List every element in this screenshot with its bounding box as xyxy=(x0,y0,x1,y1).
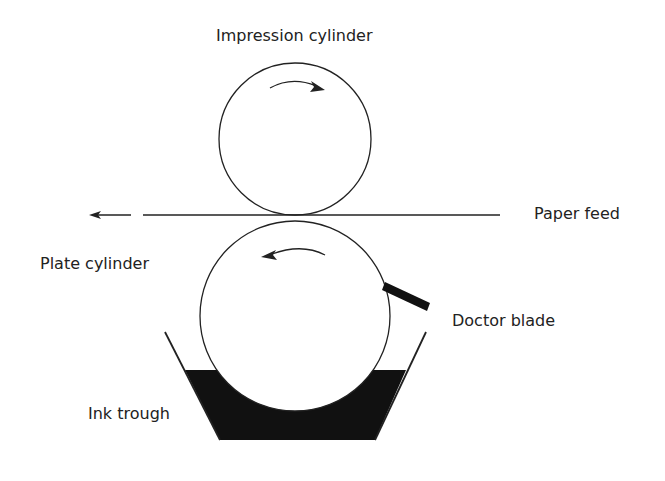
ink-trough-label: Ink trough xyxy=(88,404,170,423)
plate-cylinder-label: Plate cylinder xyxy=(40,254,149,273)
gravure-printing-diagram: Impression cylinder Paper feed Plate cyl… xyxy=(0,0,665,481)
impression-cylinder xyxy=(219,63,371,215)
impression-cylinder-label: Impression cylinder xyxy=(216,26,373,45)
doctor-blade-label: Doctor blade xyxy=(452,311,555,330)
paper-feed-arrow-icon xyxy=(89,211,131,219)
paper-feed-label: Paper feed xyxy=(534,204,620,223)
